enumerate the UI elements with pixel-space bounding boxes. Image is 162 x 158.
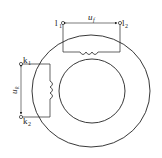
svg-text:1: 1	[28, 60, 31, 66]
svg-text:f: f	[93, 17, 96, 23]
toroid-diagram: l 1 l 2 u f k 1 k 2 u k	[0, 0, 162, 158]
primary-coil-icon	[80, 52, 98, 55]
svg-text:2: 2	[125, 23, 128, 29]
secondary-winding: k 1 k 2 u k	[9, 55, 53, 127]
inner-core-ring	[59, 59, 125, 123]
terminal-l1-label: l	[55, 18, 58, 28]
svg-text:1: 1	[59, 23, 62, 29]
svg-text:k: k	[14, 86, 20, 89]
secondary-coil-icon	[50, 81, 53, 99]
primary-winding: l 1 l 2 u f	[55, 12, 128, 55]
outer-core-ring	[32, 35, 150, 147]
svg-text:2: 2	[28, 121, 31, 127]
